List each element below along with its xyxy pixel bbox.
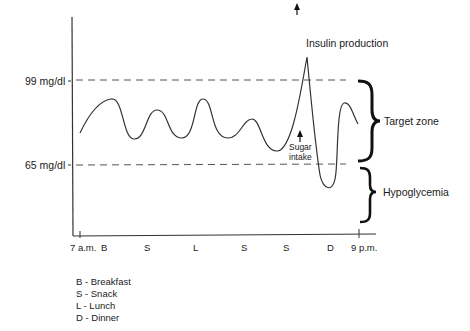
x-label-start: 7 a.m.: [70, 243, 96, 253]
legend-item-lunch: L - Lunch: [76, 300, 131, 312]
diagram-canvas: [0, 0, 470, 331]
insulin-arrow-icon: [294, 3, 300, 15]
x-label-meal-lunch: L: [193, 243, 198, 253]
x-label-meal-breakfast: B: [101, 243, 107, 253]
sugar-arrow-icon: [297, 130, 303, 142]
insulin-production-label: Insulin production: [306, 38, 388, 49]
upper-threshold-label: 99 mg/dl: [25, 76, 65, 87]
legend-item-dinner: D - Dinner: [76, 312, 131, 324]
x-label-meal-snack-3: S: [283, 243, 289, 253]
y-axis: [72, 17, 73, 236]
target-zone-brace: [358, 81, 380, 161]
target-zone-label: Target zone: [384, 116, 439, 127]
lower-threshold-line: [76, 164, 346, 165]
legend: B - Breakfast S - Snack L - Lunch D - Di…: [76, 276, 131, 324]
glucose-curve: [80, 57, 358, 188]
x-label-meal-dinner: D: [327, 243, 334, 253]
sugar-intake-label-line2: intake: [289, 153, 312, 162]
x-label-meal-snack-2: S: [241, 243, 247, 253]
legend-item-snack: S - Snack: [76, 288, 131, 300]
legend-item-breakfast: B - Breakfast: [76, 276, 131, 288]
hypoglycemia-label: Hypoglycemia: [383, 187, 449, 198]
lower-threshold-label: 65 mg/dl: [25, 160, 65, 171]
sugar-intake-label-line1: Sugar: [289, 143, 312, 152]
hypoglycemia-brace: [360, 168, 376, 222]
x-label-meal-snack-1: S: [144, 243, 150, 253]
x-axis: [73, 234, 376, 236]
x-label-end: 9 p.m.: [351, 243, 377, 253]
